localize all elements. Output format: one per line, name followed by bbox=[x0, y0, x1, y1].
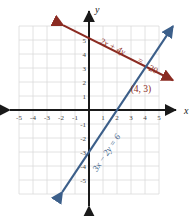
x-axis-label: x bbox=[183, 105, 189, 116]
x-tick: 5 bbox=[157, 114, 161, 122]
x-tick: -1 bbox=[72, 114, 78, 122]
y-tick: 3 bbox=[83, 65, 87, 73]
intersection-point-label: (4, 3) bbox=[131, 84, 152, 95]
y-tick: 1 bbox=[83, 93, 87, 101]
red-line-equals-sign: = bbox=[136, 55, 145, 66]
x-tick: 1 bbox=[101, 114, 105, 122]
y-tick: -5 bbox=[80, 177, 86, 185]
y-axis-label: y bbox=[94, 4, 100, 15]
x-tick: -3 bbox=[44, 114, 50, 122]
x-tick: 2 bbox=[115, 114, 119, 122]
y-tick: -2 bbox=[80, 135, 86, 143]
x-tick: -5 bbox=[16, 114, 22, 122]
red-line-equation-value: 20 bbox=[147, 63, 160, 76]
x-tick: 4 bbox=[143, 114, 147, 122]
x-tick: 3 bbox=[129, 114, 133, 122]
coordinate-plane-svg: y x -5 -4 -3 -2 -1 1 2 3 4 5 5 4 3 2 1 -… bbox=[0, 0, 195, 216]
y-tick: 2 bbox=[83, 79, 87, 87]
y-tick: 4 bbox=[83, 51, 87, 59]
y-tick: 5 bbox=[83, 37, 87, 45]
graph-figure: y x -5 -4 -3 -2 -1 1 2 3 4 5 5 4 3 2 1 -… bbox=[0, 0, 195, 216]
x-tick: -2 bbox=[58, 114, 64, 122]
y-tick: -1 bbox=[80, 121, 86, 129]
x-tick: -4 bbox=[30, 114, 36, 122]
